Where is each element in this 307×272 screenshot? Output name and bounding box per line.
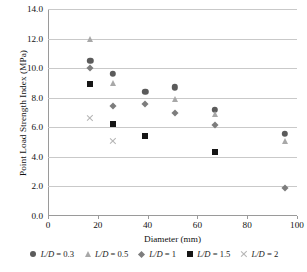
data-point [109, 137, 117, 145]
x-tick-mark [247, 216, 248, 219]
gridline [48, 39, 297, 40]
x-tick-label: 60 [193, 220, 202, 230]
x-axis-title: Diameter (mm) [48, 234, 297, 244]
data-point [87, 36, 93, 42]
x-tick-mark [98, 216, 99, 219]
legend-marker [239, 250, 248, 259]
diamond-marker-icon [171, 109, 178, 116]
data-point [281, 131, 287, 137]
circle-marker-icon [30, 251, 36, 257]
square-marker-icon [212, 149, 218, 155]
cross-marker-icon [86, 114, 94, 122]
legend-marker [29, 250, 38, 259]
triangle-marker-icon [110, 80, 116, 86]
x-tick-label: 0 [46, 220, 51, 230]
gridline [48, 186, 297, 187]
triangle-marker-icon [172, 96, 178, 102]
data-point [143, 102, 148, 107]
data-point [110, 103, 115, 108]
diamond-marker-icon [211, 122, 218, 129]
legend-item: L/D = 0.3 [29, 249, 74, 259]
square-marker-icon [110, 121, 116, 127]
circle-marker-icon [87, 58, 93, 64]
x-tick-mark [148, 216, 149, 219]
data-point [142, 89, 148, 95]
y-tick-label: 12.0 [27, 34, 43, 44]
y-tick-label: 6.0 [32, 122, 43, 132]
data-point [87, 81, 93, 87]
diamond-marker-icon [281, 184, 288, 191]
triangle-marker-icon [85, 251, 91, 257]
data-point [110, 121, 116, 127]
square-marker-icon [142, 133, 148, 139]
legend-label: L/D = 1.5 [197, 249, 230, 259]
legend-marker [185, 250, 194, 259]
data-point [212, 111, 218, 117]
plot-area: 0.02.04.06.08.010.012.014.0 020406080100… [48, 9, 297, 216]
y-tick-label: 4.0 [32, 152, 43, 162]
data-point [142, 133, 148, 139]
legend-item: L/D = 0.5 [83, 249, 128, 259]
gridline [48, 157, 297, 158]
cross-marker-icon [109, 137, 117, 145]
circle-marker-icon [281, 131, 287, 137]
data-point [172, 110, 177, 115]
circle-marker-icon [110, 71, 116, 77]
data-point [282, 138, 288, 144]
triangle-marker-icon [282, 138, 288, 144]
square-marker-icon [87, 81, 93, 87]
legend-label: L/D = 0.3 [41, 249, 74, 259]
legend-marker [137, 250, 146, 259]
data-point [172, 96, 178, 102]
data-point [110, 80, 116, 86]
x-tick-label: 100 [290, 220, 304, 230]
y-tick-label: 0.0 [32, 211, 43, 221]
data-point [282, 185, 287, 190]
circle-marker-icon [172, 84, 178, 90]
diamond-marker-icon [138, 250, 145, 257]
data-point [110, 71, 116, 77]
gridline [48, 9, 297, 10]
legend-item: L/D = 1.5 [185, 249, 230, 259]
cross-marker-icon [240, 250, 248, 258]
data-point [172, 84, 178, 90]
data-point [86, 114, 94, 122]
diamond-marker-icon [142, 101, 149, 108]
data-point [87, 58, 93, 64]
gridline [48, 68, 297, 69]
data-point [212, 123, 217, 128]
diamond-marker-icon [87, 65, 94, 72]
x-tick-mark [197, 216, 198, 219]
x-tick-mark [297, 216, 298, 219]
x-tick-label: 80 [243, 220, 252, 230]
legend-item: L/D = 1 [137, 249, 176, 259]
y-tick-label: 14.0 [27, 4, 43, 14]
x-tick-label: 40 [143, 220, 152, 230]
triangle-marker-icon [87, 36, 93, 42]
chart-legend: L/D = 0.3L/D = 0.5L/D = 1L/D = 1.5L/D = … [0, 249, 307, 259]
data-point [88, 66, 93, 71]
legend-label: L/D = 2 [251, 249, 278, 259]
gridline [48, 127, 297, 128]
y-tick-label: 8.0 [32, 93, 43, 103]
x-tick-mark [48, 216, 49, 219]
y-tick-label: 10.0 [27, 63, 43, 73]
triangle-marker-icon [212, 111, 218, 117]
y-tick-label: 2.0 [32, 181, 43, 191]
data-point [212, 149, 218, 155]
legend-item: L/D = 2 [239, 249, 278, 259]
diamond-marker-icon [109, 102, 116, 109]
legend-marker [83, 250, 92, 259]
legend-label: L/D = 1 [149, 249, 176, 259]
circle-marker-icon [142, 89, 148, 95]
legend-label: L/D = 0.5 [95, 249, 128, 259]
x-tick-label: 20 [93, 220, 102, 230]
square-marker-icon [187, 251, 193, 257]
scatter-chart: Point Load Strength Index (MPa) 0.02.04.… [0, 0, 307, 272]
